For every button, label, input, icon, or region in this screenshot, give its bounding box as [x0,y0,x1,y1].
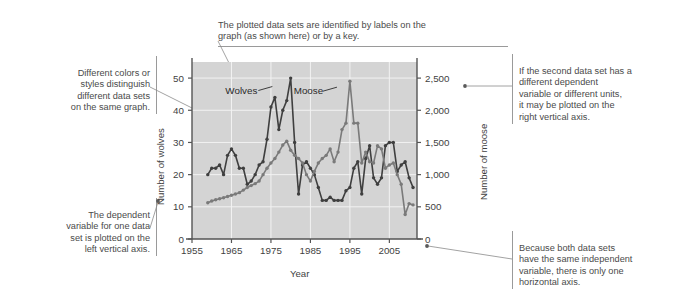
series-marker-moose [392,161,395,164]
series-marker-moose [364,150,367,153]
series-marker-wolves [317,186,320,189]
series-marker-wolves [321,199,324,202]
y2-axis-tick-label: 500 [425,201,442,212]
series-marker-moose [407,202,410,205]
chart: 0102030405005001,0001,5002,0002,50019551… [0,0,678,301]
series-marker-moose [273,157,276,160]
series-marker-wolves [265,138,268,141]
series-marker-moose [332,160,335,163]
series-marker-moose [384,167,387,170]
y2-axis-tick-label: 1,000 [425,169,450,180]
series-marker-wolves [289,76,292,79]
series-marker-moose [285,139,288,142]
series-marker-wolves [242,167,245,170]
x-axis-title: Year [290,268,309,279]
x-axis-tick-label: 1995 [339,245,361,256]
series-marker-wolves [368,144,371,147]
series-marker-moose [277,150,280,153]
series-marker-wolves [226,154,229,157]
x-axis-tick-label: 1985 [300,245,322,256]
y-axis-tick-label: 50 [173,73,184,84]
series-marker-wolves [380,176,383,179]
x-axis-tick-label: 1965 [221,245,243,256]
series-marker-moose [309,179,312,182]
x-axis-tick-label: 1975 [260,245,282,256]
series-marker-wolves [400,163,403,166]
series-marker-moose [325,154,328,157]
series-marker-moose [257,179,260,182]
series-marker-wolves [328,195,331,198]
series-marker-moose [293,154,296,157]
series-marker-moose [214,198,217,201]
series-label-moose: Moose [294,85,324,96]
series-marker-wolves [218,163,221,166]
series-marker-moose [313,170,316,173]
series-marker-moose [372,161,375,164]
y2-axis-tick-label: 1,500 [425,137,450,148]
series-marker-moose [317,161,320,164]
series-marker-wolves [348,186,351,189]
x-axis-tick-label: 1955 [181,245,203,256]
series-marker-wolves [352,167,355,170]
series-marker-moose [388,163,391,166]
series-marker-moose [234,192,237,195]
series-marker-wolves [344,189,347,192]
series-marker-moose [269,161,272,164]
series-marker-moose [265,167,268,170]
series-marker-wolves [384,144,387,147]
series-marker-moose [411,203,414,206]
series-marker-moose [230,194,233,197]
series-marker-moose [281,143,284,146]
series-label-wolves: Wolves [225,85,257,96]
series-marker-moose [253,182,256,185]
series-marker-wolves [222,173,225,176]
series-marker-moose [242,188,245,191]
series-marker-wolves [261,160,264,163]
series-marker-wolves [230,147,233,150]
y-axis-tick-label: 10 [173,201,184,212]
series-marker-moose [400,183,403,186]
y2-axis-tick-label: 0 [425,234,431,245]
series-marker-moose [261,173,264,176]
y-axis-tick-label: 0 [179,234,185,245]
series-marker-wolves [234,154,237,157]
y-axis-tick-label: 20 [173,169,184,180]
series-marker-moose [403,213,406,216]
series-marker-wolves [214,167,217,170]
series-marker-moose [396,173,399,176]
series-marker-moose [352,121,355,124]
figure-root: The plotted data sets are identified by … [0,0,678,301]
chart-canvas: 0102030405005001,0001,5002,0002,50019551… [0,0,678,301]
series-marker-moose [246,186,249,189]
series-marker-wolves [253,173,256,176]
series-marker-moose [289,148,292,151]
y-axis-tick-label: 40 [173,105,184,116]
series-marker-wolves [293,141,296,144]
series-marker-moose [368,160,371,163]
series-marker-wolves [206,173,209,176]
y-axis-tick-label: 30 [173,137,184,148]
series-marker-wolves [297,192,300,195]
series-marker-moose [344,121,347,124]
series-marker-moose [206,201,209,204]
series-marker-moose [336,150,339,153]
series-marker-moose [297,157,300,160]
y2-axis-title: Number of moose [478,124,489,200]
y2-axis-tick-label: 2,500 [425,73,450,84]
series-marker-wolves [407,176,410,179]
series-marker-moose [301,161,304,164]
series-marker-wolves [305,160,308,163]
series-marker-wolves [403,160,406,163]
series-marker-wolves [277,128,280,131]
series-marker-wolves [360,192,363,195]
series-marker-moose [360,161,363,164]
series-marker-moose [348,80,351,83]
series-marker-moose [238,191,241,194]
series-marker-wolves [336,199,339,202]
series-marker-moose [226,195,229,198]
series-marker-wolves [238,167,241,170]
series-marker-wolves [281,109,284,112]
y-axis-title: Number of wolves [155,128,166,205]
y-axis-title-text: Number of wolves [155,128,166,205]
series-marker-wolves [388,141,391,144]
